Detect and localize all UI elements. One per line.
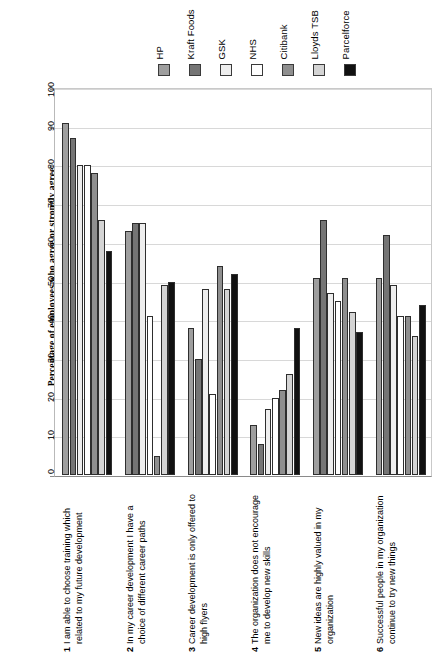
legend-swatch-icon [220, 64, 232, 76]
x-category-label-inner: 3Career development is only offered to h… [187, 484, 247, 652]
y-tick-label: 80 [24, 160, 48, 172]
y-tick-label: 30 [24, 354, 48, 366]
legend-label: HP [155, 46, 165, 59]
x-category-text: Career development is only offered to hi… [187, 494, 210, 644]
y-tick-label-text: 80 [46, 159, 56, 169]
y-tick-label-text: 70 [46, 198, 56, 208]
y-tick-label-text: 0 [46, 469, 56, 474]
y-tick-label: 90 [24, 122, 48, 134]
legend-item: Parcelforce [338, 2, 368, 78]
legend-label: Lloyds TSB [310, 10, 320, 59]
legend-swatch-icon [313, 64, 325, 76]
legend-item: Citibank [276, 2, 306, 78]
x-axis-category-labels: 1I am able to choose training which rela… [54, 484, 438, 652]
x-category-number: 3 [187, 647, 199, 652]
x-category-label: 5New ideas are highly valued in my organ… [313, 316, 373, 484]
legend-label: Kraft Foods [186, 9, 196, 59]
x-category-text: I am able to choose training which relat… [62, 494, 85, 644]
x-category-label: 3Career development is only offered to h… [187, 316, 247, 484]
x-category-label-inner: 1I am able to choose training which rela… [62, 484, 122, 652]
y-tick-label-text: 20 [46, 392, 56, 402]
x-category-text: The organization does not encourage me t… [250, 494, 273, 644]
x-category-label: 4The organization does not encourage me … [250, 316, 310, 484]
legend-item: Kraft Foods [183, 2, 213, 78]
y-tick-label-text: 50 [46, 276, 56, 286]
y-tick-label-text: 100 [46, 82, 56, 97]
legend-swatch-icon [189, 64, 201, 76]
legend-swatch-icon [282, 64, 294, 76]
y-tick-label: 70 [24, 199, 48, 211]
legend-swatch-icon [158, 64, 170, 76]
x-category-number: 6 [375, 647, 387, 652]
x-category-number: 1 [62, 647, 74, 652]
y-tick-label: 60 [24, 238, 48, 250]
x-category-label-inner: 2In my career development I have a choic… [125, 484, 185, 652]
y-tick-label: 40 [24, 315, 48, 327]
x-category-text: New ideas are highly valued in my organi… [313, 494, 336, 644]
legend-item: HP [152, 2, 182, 78]
x-category-label-inner: 4The organization does not encourage me … [250, 484, 310, 652]
y-tick-label-text: 30 [46, 353, 56, 363]
chart-legend: HPKraft FoodsGSKNHSCitibankLloyds TSBPar… [152, 2, 382, 78]
y-tick-label-text: 10 [46, 430, 56, 440]
legend-swatch-icon [251, 64, 263, 76]
x-category-text: Successful people in my organization con… [375, 494, 398, 644]
legend-item: GSK [214, 2, 244, 78]
y-tick-label: 0 [24, 470, 48, 482]
y-tick-label-text: 40 [46, 314, 56, 324]
y-tick-label: 20 [24, 393, 48, 405]
y-tick-label-text: 60 [46, 237, 56, 247]
legend-item: Lloyds TSB [307, 2, 337, 78]
legend-label: GSK [217, 39, 227, 59]
bar-chart: HPKraft FoodsGSKNHSCitibankLloyds TSBPar… [0, 0, 438, 654]
x-category-number: 2 [125, 647, 137, 652]
x-category-number: 5 [313, 647, 325, 652]
legend-label: Parcelforce [341, 10, 351, 59]
y-tick-label: 10 [24, 431, 48, 443]
x-category-label: 2In my career development I have a choic… [125, 316, 185, 484]
x-category-label: 1I am able to choose training which rela… [62, 316, 122, 484]
y-tick-label: 100 [24, 83, 48, 95]
y-tick-label: 50 [24, 277, 48, 289]
x-category-label: 6Successful people in my organization co… [375, 316, 435, 484]
y-tick-label-text: 90 [46, 121, 56, 131]
legend-item: NHS [245, 2, 275, 78]
legend-swatch-icon [344, 64, 356, 76]
x-category-number: 4 [250, 647, 262, 652]
x-category-label-inner: 6Successful people in my organization co… [375, 484, 435, 652]
y-tick-mark [50, 476, 54, 477]
x-category-text: In my career development I have a choice… [125, 494, 148, 644]
x-category-label-inner: 5New ideas are highly valued in my organ… [313, 484, 373, 652]
legend-label: Citibank [279, 24, 289, 59]
legend-label: NHS [248, 39, 258, 59]
